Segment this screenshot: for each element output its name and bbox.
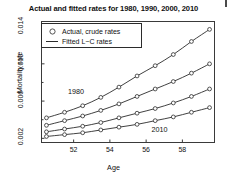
- data-point-1980: [135, 74, 139, 78]
- data-point-1990: [208, 62, 212, 66]
- data-point-1990: [171, 80, 175, 84]
- data-point-1990: [190, 71, 194, 75]
- data-point-2010: [63, 133, 67, 137]
- legend-label-fitted: Fitted L−C rates: [62, 38, 112, 45]
- chart-legend: Actual, crude rates Fitted L−C rates: [41, 23, 142, 48]
- data-point-2010: [190, 110, 194, 114]
- edge-marker: [225, 0, 227, 7]
- data-point-1990: [45, 123, 49, 127]
- chart-figure: Actual and fitted rates for 1980, 1990, …: [0, 0, 227, 177]
- data-point-2010: [81, 131, 85, 135]
- data-point-2000: [135, 111, 139, 115]
- data-point-1990: [153, 87, 157, 91]
- y-tick-label: 0.006: [17, 83, 24, 117]
- data-point-1990: [63, 119, 67, 123]
- data-point-2000: [190, 95, 194, 99]
- fitted-line-2010: [46, 108, 209, 137]
- data-point-2000: [117, 116, 121, 120]
- y-tick-label: 0.014: [17, 8, 24, 42]
- data-point-1980: [99, 95, 103, 99]
- data-point-1990: [117, 102, 121, 106]
- data-point-1980: [153, 64, 157, 68]
- data-point-2000: [45, 130, 49, 134]
- x-tick-label: 58: [172, 146, 192, 153]
- x-tick-label: 52: [64, 146, 84, 153]
- data-point-2010: [117, 125, 121, 129]
- legend-label-actual: Actual, crude rates: [62, 28, 120, 35]
- data-point-1980: [63, 110, 67, 114]
- circle-marker-icon: [42, 27, 62, 36]
- data-point-2010: [171, 115, 175, 119]
- curve-annotation-1980: 1980: [68, 87, 84, 96]
- data-point-1980: [171, 53, 175, 57]
- data-point-2010: [99, 128, 103, 132]
- data-point-2000: [208, 87, 212, 91]
- data-point-1990: [81, 114, 85, 118]
- line-segment-icon: [42, 37, 62, 46]
- x-tick-label: 54: [100, 146, 120, 153]
- data-point-1980: [45, 116, 49, 120]
- data-point-2000: [63, 127, 67, 131]
- data-point-2010: [153, 119, 157, 123]
- data-point-1980: [208, 27, 212, 31]
- data-point-2000: [99, 121, 103, 125]
- data-point-1980: [81, 104, 85, 108]
- data-point-1980: [117, 85, 121, 89]
- data-point-1990: [99, 109, 103, 113]
- legend-entry-fitted: Fitted L−C rates: [42, 36, 143, 47]
- x-axis-label: Age: [0, 163, 227, 172]
- x-tick-label: 56: [136, 146, 156, 153]
- data-point-2010: [135, 122, 139, 126]
- data-point-2010: [45, 135, 49, 139]
- data-point-2000: [153, 107, 157, 111]
- data-point-1990: [135, 95, 139, 99]
- chart-title: Actual and fitted rates for 1980, 1990, …: [0, 4, 227, 13]
- data-point-2000: [81, 124, 85, 128]
- data-point-2010: [208, 106, 212, 110]
- data-point-2000: [171, 101, 175, 105]
- data-point-1980: [190, 40, 194, 44]
- y-tick-label: 0.002: [17, 120, 24, 154]
- y-tick-label: 0.010: [17, 45, 24, 79]
- curve-annotation-2010: 2010: [151, 125, 167, 134]
